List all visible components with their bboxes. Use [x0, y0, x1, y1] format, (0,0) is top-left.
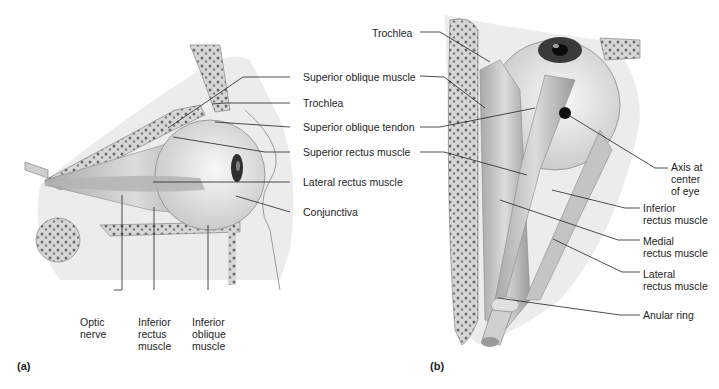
panel-b-illustration — [445, 15, 640, 347]
panel-a-illustration — [25, 45, 293, 290]
label-superior-oblique-muscle: Superior oblique muscle — [303, 71, 416, 83]
label-optic-nerve: Optic nerve — [80, 316, 106, 340]
label-lateral-rectus-muscle-b: Lateral rectus muscle — [643, 268, 708, 292]
label-medial-rectus-muscle: Medial rectus muscle — [643, 235, 708, 259]
label-inferior-rectus-muscle-b: Inferior rectus muscle — [643, 202, 708, 226]
label-anular-ring: Anular ring — [643, 309, 694, 321]
extraocular-muscles-figure: Superior oblique muscle Trochlea Superio… — [0, 0, 719, 389]
label-inferior-rectus-muscle-a: Inferior rectus muscle — [138, 316, 171, 352]
anatomy-illustration — [0, 0, 719, 389]
label-trochlea-a: Trochlea — [303, 97, 343, 109]
panel-a-label: (a) — [17, 360, 30, 372]
label-trochlea-b: Trochlea — [372, 27, 412, 39]
label-conjunctiva: Conjunctiva — [303, 206, 358, 218]
label-lateral-rectus-muscle-a: Lateral rectus muscle — [303, 176, 403, 188]
panel-b-label: (b) — [430, 360, 444, 372]
label-inferior-oblique-muscle: Inferior oblique muscle — [192, 316, 226, 352]
label-superior-oblique-tendon: Superior oblique tendon — [303, 121, 415, 133]
label-superior-rectus-muscle: Superior rectus muscle — [303, 146, 410, 158]
label-axis-center-of-eye: Axis at center of eye — [671, 161, 703, 197]
